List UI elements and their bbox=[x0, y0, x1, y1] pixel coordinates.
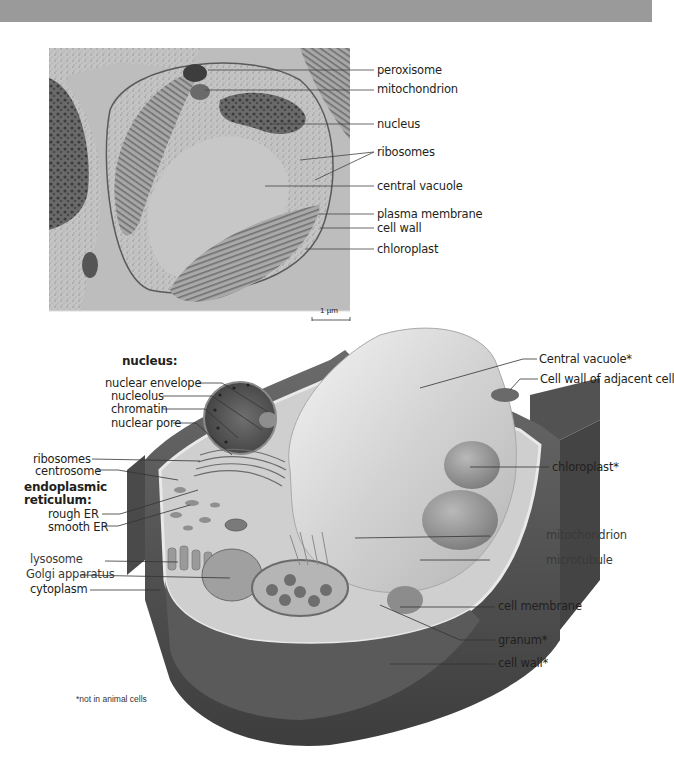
heading-nucleus: nucleus: bbox=[122, 355, 177, 368]
label-golgi-apparatus: Golgi apparatus bbox=[26, 568, 115, 581]
label-chromatin: chromatin bbox=[111, 403, 168, 416]
label-cell-membrane: cell membrane bbox=[498, 600, 582, 613]
label-cytoplasm: cytoplasm bbox=[30, 583, 88, 596]
label-central-vacuole: central vacuole bbox=[377, 180, 463, 193]
label-cell-wall-diagram: cell wall* bbox=[498, 657, 548, 670]
label-chloroplast: chloroplast bbox=[377, 243, 438, 256]
heading-er-2: reticulum: bbox=[24, 494, 92, 507]
label-mitochondrion-diagram: mitochondrion bbox=[546, 529, 627, 542]
label-granum: granum* bbox=[498, 634, 547, 647]
label-ribosomes: ribosomes bbox=[377, 146, 435, 159]
label-centrosome: centrosome bbox=[35, 465, 101, 478]
label-lysosome: lysosome bbox=[30, 553, 83, 566]
label-cell-wall-adjacent: Cell wall of adjacent cell bbox=[540, 373, 674, 386]
label-peroxisome: peroxisome bbox=[377, 64, 442, 77]
label-central-vacuole-diagram: Central vacuole* bbox=[539, 353, 632, 366]
label-smooth-er: smooth ER bbox=[48, 521, 108, 534]
label-plasma-membrane: plasma membrane bbox=[377, 208, 482, 221]
label-microtubule: microtubule bbox=[546, 554, 613, 567]
label-chloroplast-diagram: chloroplast* bbox=[552, 461, 619, 474]
scale-bar-label: 1 µm bbox=[320, 306, 338, 315]
label-nuclear-pore: nuclear pore bbox=[111, 417, 181, 430]
label-cell-wall: cell wall bbox=[377, 222, 422, 235]
label-mitochondrion: mitochondrion bbox=[377, 83, 458, 96]
label-nucleus: nucleus bbox=[377, 118, 420, 131]
footnote: *not in animal cells bbox=[76, 694, 147, 704]
